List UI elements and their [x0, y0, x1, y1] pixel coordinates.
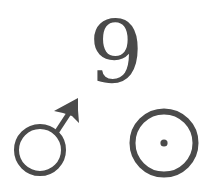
mars-icon: [17, 98, 80, 174]
symbols-canvas: [0, 0, 215, 181]
sun-icon: [133, 112, 196, 175]
